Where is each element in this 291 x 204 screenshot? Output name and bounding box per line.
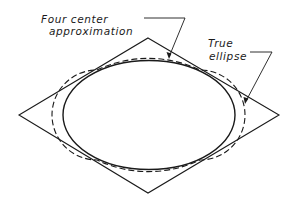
ellipse-diagram: Four center approximation True ellipse xyxy=(0,0,291,204)
four-center-approximation-curve xyxy=(52,58,245,171)
true-ellipse-label-line1: True xyxy=(208,37,233,49)
four-center-label-line2: approximation xyxy=(49,25,133,37)
true-ellipse-curve xyxy=(63,61,235,170)
four-center-leader-line xyxy=(144,18,185,57)
true-ellipse-label-line2: ellipse xyxy=(209,50,247,62)
true-ellipse-leader-line xyxy=(246,52,272,101)
four-center-label-line1: Four center xyxy=(41,13,108,25)
